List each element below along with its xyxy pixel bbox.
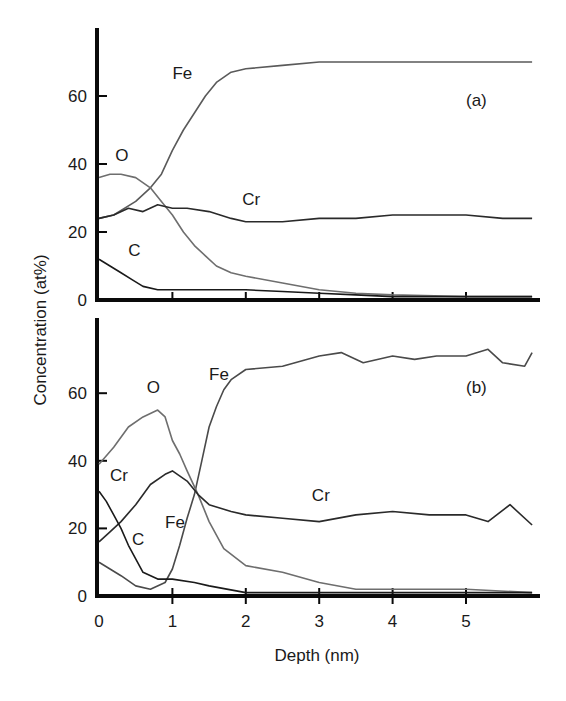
x-tick-label: 0 [94,612,103,631]
y-tick-label: 40 [68,452,87,471]
x-tick-label: 3 [314,612,323,631]
series-fe-line [99,62,532,218]
panel-a: 0204060FeOCrC(a) [68,28,540,310]
curve-label-fe: Fe [172,64,192,83]
y-tick-label: 20 [68,519,87,538]
curve-label-c: C [132,530,144,549]
curve-label-o: O [115,146,128,165]
x-tick-label: 2 [241,612,250,631]
y-tick-label: 60 [68,384,87,403]
curve-label-fe: Fe [209,365,229,384]
x-axis-title: Depth (nm) [274,646,359,665]
x-axis-tick-labels: 012345 [94,612,470,631]
x-tick-label: 4 [388,612,397,631]
x-tick-label: 5 [461,612,470,631]
series-cr-line [99,205,532,222]
panel-label: (b) [466,378,487,397]
y-tick-label: 0 [78,291,87,310]
curve-label-c: C [128,241,140,260]
y-tick-label: 0 [78,587,87,606]
curve-label-cr: Cr [312,486,330,505]
curve-label-cr: Cr [242,190,260,209]
curve-label-cr: Cr [110,466,128,485]
series-o-line [99,174,532,296]
curve-label-o: O [147,378,160,397]
series-cr-line [99,471,532,542]
y-axis-title: Concentration (at%) [31,254,50,405]
y-tick-label: 20 [68,223,87,242]
y-tick-label: 40 [68,155,87,174]
y-tick-label: 60 [68,87,87,106]
panel-b: 0204060FeOCrFeCCr(b) [68,318,540,606]
x-tick-label: 1 [168,612,177,631]
depth-profile-chart: 0204060FeOCrC(a) 0204060FeOCrFeCCr(b) 01… [0,0,566,701]
series-c-line [99,259,532,296]
curve-label-fe: Fe [165,513,185,532]
panel-label: (a) [466,91,487,110]
series-c-line [99,491,532,592]
